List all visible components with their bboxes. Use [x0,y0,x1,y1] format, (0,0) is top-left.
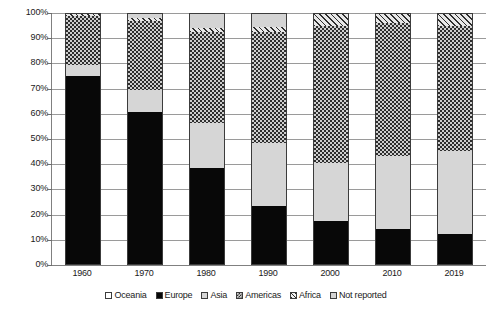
bar-segment-1980-asia[interactable] [189,123,225,168]
y-tick-mark [47,265,52,266]
x-tick-label-1960: 1960 [54,268,110,279]
bar-segment-1970-africa[interactable] [127,18,163,21]
y-tick-label: 40% [6,159,48,168]
bar-segment-1990-oceania[interactable] [251,264,287,265]
x-tick-label-1990: 1990 [240,268,296,279]
y-axis: 0%10%20%30%40%50%60%70%80%90%100% [6,0,48,282]
bar-segment-2019-asia[interactable] [437,151,473,234]
legend-item-oceania[interactable]: Oceania [105,290,146,300]
bar-segment-1980-oceania[interactable] [189,264,225,265]
legend-swatch-asia-icon [201,292,208,299]
legend-swatch-europe-icon [156,292,163,299]
x-tick-label-1970: 1970 [116,268,172,279]
plot-area: 0%10%20%30%40%50%60%70%80%90%100% 196019… [0,0,492,282]
y-tick-label: 80% [6,58,48,67]
legend-item-europe[interactable]: Europe [156,290,193,300]
bar-segment-2019-europe[interactable] [437,234,473,264]
bar-segment-1960-americas[interactable] [65,16,101,66]
legend-label: Africa [299,290,321,300]
bar-segment-1970-europe[interactable] [127,112,163,264]
y-tick-label: 20% [6,210,48,219]
legend-item-americas[interactable]: Americas [236,290,281,300]
bar-segment-2000-africa[interactable] [313,13,349,26]
bar-segment-2000-europe[interactable] [313,221,349,264]
bar-segment-1960-asia[interactable] [65,65,101,75]
bar-segment-2019-africa[interactable] [437,13,473,26]
bar-2010[interactable] [375,13,411,265]
bar-segment-2010-africa[interactable] [375,13,411,23]
bar-1970[interactable] [127,13,163,265]
legend-label: Europe [165,290,193,300]
legend-label: Not reported [339,290,387,300]
plot-frame [51,13,486,266]
bar-segment-1980-europe[interactable] [189,168,225,264]
bar-segment-1970-not-reported[interactable] [127,13,163,18]
bar-segment-1990-africa[interactable] [251,27,287,32]
bar-segment-1970-oceania[interactable] [127,264,163,265]
y-tick-label: 0% [6,260,48,269]
legend-label: Asia [210,290,227,300]
legend-item-asia[interactable]: Asia [201,290,227,300]
x-tick-label-1980: 1980 [178,268,234,279]
bar-segment-1970-americas[interactable] [127,21,163,91]
y-tick-label: 70% [6,84,48,93]
bar-segment-2010-americas[interactable] [375,23,411,156]
x-tick-label-2000: 2000 [302,268,358,279]
y-tick-label: 100% [6,8,48,17]
bar-1990[interactable] [251,13,287,265]
legend-label: Americas [245,290,281,300]
bar-segment-1990-not-reported[interactable] [251,13,287,27]
bar-segment-1980-africa[interactable] [189,28,225,32]
x-tick-label-2010: 2010 [364,268,420,279]
bar-segment-1960-africa[interactable] [65,13,101,16]
bar-segment-1960-oceania[interactable] [65,264,101,265]
bar-segment-2019-oceania[interactable] [437,264,473,265]
chart-legend: OceaniaEuropeAsiaAmericasAfricaNot repor… [0,286,492,304]
bar-1980[interactable] [189,13,225,265]
bar-1960[interactable] [65,13,101,265]
stacked-bar-chart: 0%10%20%30%40%50%60%70%80%90%100% 196019… [0,0,492,315]
bar-segment-2000-oceania[interactable] [313,264,349,265]
legend-item-notreported[interactable]: Not reported [330,290,387,300]
y-tick-label: 90% [6,33,48,42]
legend-swatch-oceania-icon [105,292,112,299]
y-tick-label: 10% [6,235,48,244]
y-tick-label: 50% [6,134,48,143]
bar-2000[interactable] [313,13,349,265]
bar-segment-1980-americas[interactable] [189,32,225,123]
bar-segment-1980-not-reported[interactable] [189,13,225,28]
bar-2019[interactable] [437,13,473,265]
bar-segment-1970-asia[interactable] [127,90,163,112]
bar-segment-2010-europe[interactable] [375,229,411,264]
bar-segment-1990-americas[interactable] [251,32,287,143]
bar-segment-2019-americas[interactable] [437,26,473,151]
bar-segment-1960-europe[interactable] [65,76,101,264]
bar-segment-2000-asia[interactable] [313,163,349,221]
legend-swatch-americas-icon [236,292,243,299]
x-tick-label-2019: 2019 [426,268,482,279]
y-tick-label: 30% [6,184,48,193]
x-axis: 1960197019801990200020102019 [51,268,485,282]
y-tick-label: 60% [6,109,48,118]
legend-swatch-africa-icon [290,292,297,299]
legend-label: Oceania [114,290,146,300]
legend-item-africa[interactable]: Africa [290,290,321,300]
bar-segment-2000-americas[interactable] [313,26,349,164]
bar-segment-2010-asia[interactable] [375,156,411,229]
bar-segment-1990-europe[interactable] [251,206,287,264]
legend-swatch-notreported-icon [330,292,337,299]
bar-segment-1990-asia[interactable] [251,143,287,206]
bar-segment-2010-oceania[interactable] [375,264,411,265]
